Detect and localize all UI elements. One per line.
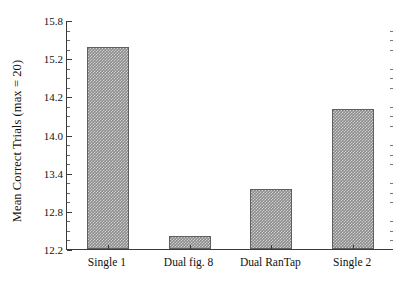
y-axis-minor-tick [67, 50, 70, 51]
x-axis-tick-label: Dual RanTap [240, 256, 301, 268]
y-axis-tick-mark [67, 21, 72, 22]
y-axis-tick-label: 14.2 [44, 91, 63, 103]
y-axis-minor-tick [67, 116, 70, 117]
y-axis-tick-mark [67, 59, 72, 60]
y-axis-tick-mark [67, 250, 72, 251]
y-axis-tick-label: 15.2 [44, 53, 63, 65]
y-axis-tick-label: 13.4 [44, 168, 63, 180]
x-axis-tick-mark [353, 245, 354, 249]
x-axis-tick-label: Dual fig. 8 [164, 256, 214, 268]
y-axis-right-minor-tick [390, 183, 393, 184]
y-axis-right-minor-tick [390, 155, 393, 156]
y-axis-minor-tick [67, 183, 70, 184]
y-axis-right-minor-tick [390, 88, 393, 89]
y-axis-right-minor-tick [390, 202, 393, 203]
y-axis-tick-label: 12.2 [44, 244, 63, 256]
y-axis-right-minor-tick [390, 78, 393, 79]
y-axis-minor-tick [67, 155, 70, 156]
bar-chart-figure: Mean Correct Trials (max = 20) 15.815.21… [0, 0, 412, 281]
y-axis-right-minor-tick [390, 193, 393, 194]
y-axis-tick-mark [67, 212, 72, 213]
y-axis-right-minor-tick [390, 116, 393, 117]
bar [250, 189, 292, 249]
y-axis-minor-tick [67, 40, 70, 41]
y-axis-minor-tick [67, 231, 70, 232]
y-axis-minor-tick [67, 221, 70, 222]
x-axis-tick-mark [190, 245, 191, 249]
y-axis-minor-tick [67, 193, 70, 194]
y-axis-right-minor-tick [390, 40, 393, 41]
y-axis-tick-mark [67, 136, 72, 137]
y-axis-right-minor-tick [390, 145, 393, 146]
x-axis-tick-mark [108, 245, 109, 249]
y-axis-right-minor-tick [390, 164, 393, 165]
y-axis-minor-tick [67, 240, 70, 241]
y-axis-right-minor-tick [390, 221, 393, 222]
y-axis-title-container: Mean Correct Trials (max = 20) [0, 0, 34, 281]
y-axis-right-minor-tick [390, 107, 393, 108]
y-axis-tick-label: 14.0 [44, 130, 63, 142]
y-axis-minor-tick [67, 88, 70, 89]
y-axis-tick-label: 15.8 [44, 15, 63, 27]
y-axis-minor-tick [67, 145, 70, 146]
y-axis-minor-tick [67, 78, 70, 79]
y-axis-right-minor-tick [390, 50, 393, 51]
y-axis-minor-tick [67, 107, 70, 108]
y-axis-tick-mark [67, 174, 72, 175]
y-axis-minor-tick [67, 31, 70, 32]
y-axis-minor-tick [67, 69, 70, 70]
y-axis-minor-tick [67, 164, 70, 165]
y-axis-right-minor-tick [390, 126, 393, 127]
x-axis-tick-mark [271, 245, 272, 249]
y-axis-minor-tick [67, 126, 70, 127]
y-axis-tick-label: 12.8 [44, 206, 63, 218]
y-axis-right-minor-tick [390, 69, 393, 70]
x-axis-tick-label: Single 1 [88, 256, 126, 268]
y-axis-right-minor-tick [390, 31, 393, 32]
y-axis-minor-tick [67, 202, 70, 203]
y-axis-right-minor-tick [390, 240, 393, 241]
y-axis-title: Mean Correct Trials (max = 20) [10, 59, 25, 221]
plot-inner: 15.815.214.214.013.412.812.2 [67, 21, 393, 249]
y-axis-tick-mark [67, 97, 72, 98]
y-axis-right-minor-tick [390, 231, 393, 232]
bar [332, 109, 374, 249]
bar [87, 47, 129, 249]
plot-area: 15.815.214.214.013.412.812.2 [66, 21, 393, 250]
x-axis-tick-label: Single 2 [333, 256, 371, 268]
